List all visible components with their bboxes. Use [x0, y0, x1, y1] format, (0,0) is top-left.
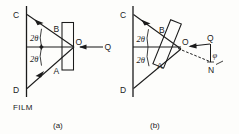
panel-a: C D B A O Q 2θ 2θ FILM (a)	[13, 6, 112, 130]
label-Q-a: Q	[105, 42, 112, 52]
figure-canvas: C D B A O Q 2θ 2θ FILM (a)	[0, 0, 239, 134]
diffraction-figure: C D B A O Q 2θ 2θ FILM (a)	[0, 0, 239, 134]
label-angle-upper-a: 2θ	[30, 33, 38, 43]
arrowhead-beam-b	[189, 43, 197, 48]
label-B-a: B	[54, 24, 60, 34]
caption-a: (a)	[53, 121, 63, 130]
angle-arc-upper-b	[147, 29, 148, 47]
angle-arc-lower-b	[147, 47, 149, 66]
label-D-a: D	[13, 85, 19, 95]
label-A-b: A	[157, 61, 163, 71]
label-A-a: A	[54, 66, 60, 76]
caption-b: (b)	[150, 121, 160, 130]
label-film-a: FILM	[13, 103, 33, 112]
panel-b: C D B A O Q N φ 2θ 2θ (b)	[120, 6, 223, 130]
label-angle-upper-b: 2θ	[137, 34, 145, 44]
crystal-plate-a	[62, 23, 74, 71]
arc-tick-lower-a	[39, 47, 43, 50]
label-B-b: B	[159, 25, 165, 35]
label-angle-lower-b: 2θ	[137, 55, 145, 65]
label-N-b: N	[208, 65, 214, 75]
label-angle-lower-a: 2θ	[30, 54, 38, 64]
label-C-a: C	[13, 10, 19, 20]
label-phi-b: φ	[213, 50, 218, 60]
label-D-b: D	[120, 85, 126, 95]
label-C-b: C	[120, 10, 126, 20]
label-O-b: O	[182, 37, 189, 47]
label-Q-b: Q	[207, 33, 214, 43]
arrowhead-upper-b	[142, 20, 151, 26]
beam-extension-dashed-b	[178, 49, 211, 63]
label-O-a: O	[76, 37, 83, 47]
normal-dash-b	[216, 61, 223, 65]
